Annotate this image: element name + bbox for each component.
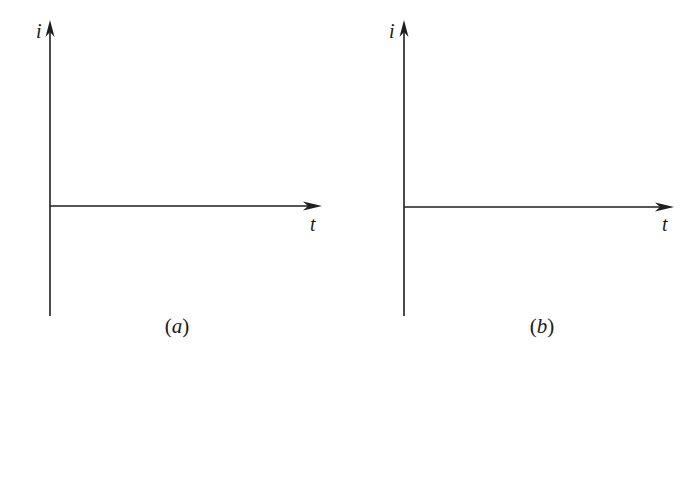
panel-a-axes — [46, 20, 323, 316]
panel-a-caption-open: ( — [165, 314, 172, 338]
panel-b-caption: (b) — [530, 316, 555, 337]
panel-a-x-axis-label: t — [310, 214, 316, 234]
panel-b-y-axis-label: i — [389, 21, 395, 41]
panel-b-axes — [400, 20, 675, 316]
panel-b-caption-open: ( — [530, 314, 537, 338]
figure: i t (a) i t (b) — [0, 0, 689, 496]
panel-a-y-axis-label: i — [36, 21, 42, 41]
panel-a-caption-letter: a — [172, 314, 183, 338]
axes-drawing — [0, 0, 689, 496]
panel-a-caption: (a) — [165, 316, 190, 337]
panel-a-caption-close: ) — [182, 314, 189, 338]
panel-b-caption-close: ) — [547, 314, 554, 338]
panel-b-caption-letter: b — [537, 314, 548, 338]
panel-b-x-axis-label: t — [662, 214, 668, 234]
